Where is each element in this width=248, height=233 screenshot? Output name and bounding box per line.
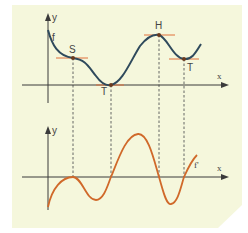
- point-label-t1: T: [101, 86, 107, 97]
- point-label-t2: T: [187, 62, 193, 73]
- top-y-label: y: [52, 12, 57, 23]
- point-label-h: H: [155, 20, 162, 31]
- diagram-canvas: y x f S T H T y x f': [0, 0, 248, 233]
- point-label-s: S: [69, 44, 76, 55]
- bottom-x-label: x: [217, 163, 222, 173]
- panel-background: [12, 5, 242, 228]
- top-x-label: x: [217, 71, 222, 81]
- bottom-y-label: y: [52, 125, 57, 136]
- fprime-label: f': [194, 160, 199, 170]
